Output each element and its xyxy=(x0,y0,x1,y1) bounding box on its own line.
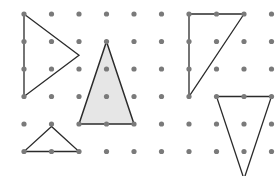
lattice-dot-r0-c4 xyxy=(131,11,136,16)
lattice-dot-r3-c1 xyxy=(49,94,54,99)
lattice-dot-r5-c7 xyxy=(214,149,219,154)
lattice-dot-r0-c1 xyxy=(49,11,54,16)
geoboard-figure xyxy=(0,0,278,176)
lattice-dot-r0-c2 xyxy=(76,11,81,16)
lattice-dot-r1-c8 xyxy=(241,39,246,44)
lattice-dot-r2-c8 xyxy=(241,66,246,71)
lattice-dot-r0-c7 xyxy=(214,11,219,16)
lattice-dot-r1-c1 xyxy=(49,39,54,44)
lattice-dot-r2-c6 xyxy=(186,66,191,71)
lattice-dot-r0-c0 xyxy=(21,11,26,16)
lattice-dot-r1-c2 xyxy=(76,39,81,44)
lattice-dot-r4-c1 xyxy=(49,121,54,126)
lattice-dot-r3-c0 xyxy=(21,94,26,99)
lattice-dot-r4-c3 xyxy=(104,121,109,126)
lattice-dot-r0-c8 xyxy=(241,11,246,16)
lattice-dot-r1-c7 xyxy=(214,39,219,44)
lattice-dot-r3-c7 xyxy=(214,94,219,99)
lattice-dot-r0-c3 xyxy=(104,11,109,16)
lattice-dot-r5-c1 xyxy=(49,149,54,154)
lattice-dot-r2-c5 xyxy=(159,66,164,71)
lattice-dot-r4-c6 xyxy=(186,121,191,126)
lattice-dot-r0-c9 xyxy=(269,11,274,16)
lattice-dot-r4-c9 xyxy=(269,121,274,126)
lattice-dot-r2-c2 xyxy=(76,66,81,71)
lattice-dot-r2-c1 xyxy=(49,66,54,71)
lattice-dot-r3-c9 xyxy=(269,94,274,99)
lattice-dot-r2-c9 xyxy=(269,66,274,71)
lattice-dot-r1-c3 xyxy=(104,39,109,44)
lattice-dot-r1-c0 xyxy=(21,39,26,44)
lattice-dot-r3-c3 xyxy=(104,94,109,99)
lattice-dot-r4-c7 xyxy=(214,121,219,126)
lattice-dot-r4-c2 xyxy=(76,121,81,126)
lattice-dot-r3-c5 xyxy=(159,94,164,99)
lattice-dot-r2-c0 xyxy=(21,66,26,71)
lattice-dot-r2-c3 xyxy=(104,66,109,71)
lattice-dot-r3-c8 xyxy=(241,94,246,99)
lattice-dot-r5-c9 xyxy=(269,149,274,154)
lattice-dot-r3-c2 xyxy=(76,94,81,99)
lattice-dot-r2-c7 xyxy=(214,66,219,71)
lattice-dot-r5-c0 xyxy=(21,149,26,154)
geoboard-canvas xyxy=(0,0,278,176)
lattice-dot-r2-c4 xyxy=(131,66,136,71)
lattice-dot-r4-c8 xyxy=(241,121,246,126)
lattice-dot-r3-c4 xyxy=(131,94,136,99)
lattice-dot-r4-c0 xyxy=(21,121,26,126)
lattice-dot-r0-c5 xyxy=(159,11,164,16)
lattice-dot-r1-c5 xyxy=(159,39,164,44)
lattice-dot-r5-c4 xyxy=(131,149,136,154)
lattice-dot-r4-c5 xyxy=(159,121,164,126)
lattice-dot-r1-c4 xyxy=(131,39,136,44)
lattice-dot-r0-c6 xyxy=(186,11,191,16)
lattice-dot-r1-c9 xyxy=(269,39,274,44)
lattice-dot-r5-c5 xyxy=(159,149,164,154)
lattice-dot-r5-c2 xyxy=(76,149,81,154)
lattice-dot-r5-c6 xyxy=(186,149,191,154)
lattice-dot-r5-c3 xyxy=(104,149,109,154)
lattice-dot-r3-c6 xyxy=(186,94,191,99)
lattice-dot-r5-c8 xyxy=(241,149,246,154)
lattice-dot-r1-c6 xyxy=(186,39,191,44)
lattice-dot-r4-c4 xyxy=(131,121,136,126)
